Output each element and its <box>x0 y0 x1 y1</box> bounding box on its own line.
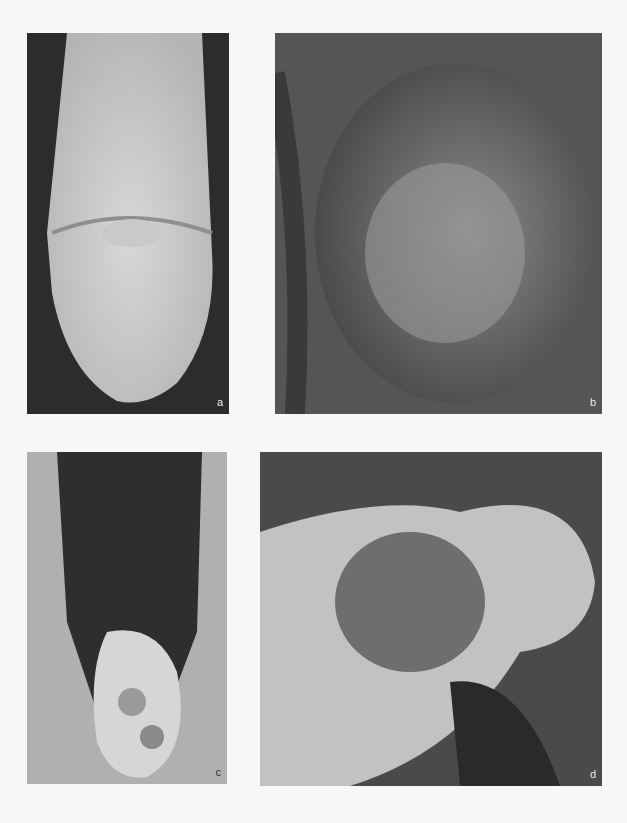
photo-a <box>27 33 229 414</box>
photo-d <box>260 452 602 786</box>
figure-panel-b: b <box>275 33 602 414</box>
photo-c <box>27 452 227 784</box>
figure-panel-d: d <box>260 452 602 786</box>
panel-label-a: a <box>217 397 223 408</box>
figure-panel-c: c <box>27 452 227 784</box>
photo-b <box>275 33 602 414</box>
panel-label-d: d <box>590 769 596 780</box>
panel-label-b: b <box>590 397 596 408</box>
figure-panel-a: a <box>27 33 229 414</box>
panel-label-c: c <box>216 767 222 778</box>
